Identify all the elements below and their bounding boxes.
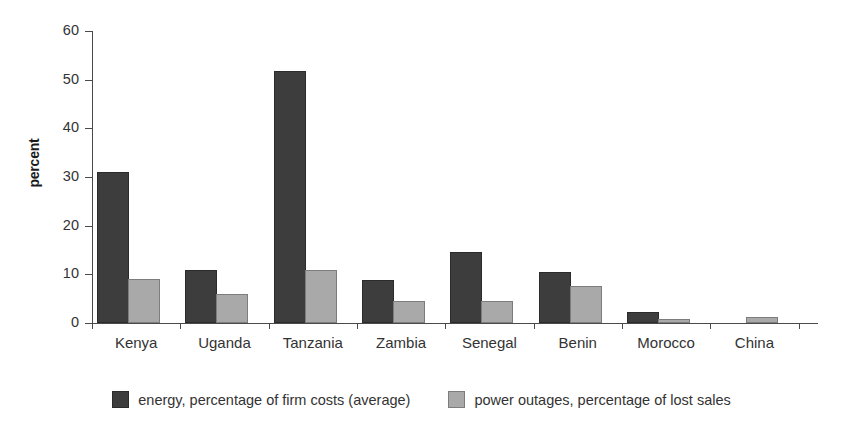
bar-group [357,31,445,323]
y-tick: 20 [85,226,92,227]
y-tick: 40 [85,128,92,129]
x-axis-label-morocco: Morocco [616,334,716,351]
bar-group [92,31,180,323]
bar-power-outages[interactable] [216,294,248,323]
bar-energy[interactable] [185,270,217,323]
bar-chart: percent 0102030405060 KenyaUgandaTanzani… [0,0,843,440]
bar-power-outages[interactable] [658,319,690,323]
bar-power-outages[interactable] [128,279,160,323]
bar-group [269,31,357,323]
y-tick-label: 0 [71,314,79,330]
bar-energy[interactable] [627,312,659,323]
bar-group [180,31,268,323]
x-tick [622,323,623,329]
bar-power-outages[interactable] [393,301,425,323]
legend-label-power-outages: power outages, percentage of lost sales [474,392,730,408]
dark-swatch-icon [112,391,129,408]
bar-energy[interactable] [274,71,306,323]
x-axis-label-benin: Benin [528,334,628,351]
x-axis-label-uganda: Uganda [174,334,274,351]
x-axis-line [92,323,818,324]
bar-power-outages[interactable] [481,301,513,323]
y-tick: 0 [85,323,92,324]
bar-group [534,31,622,323]
light-swatch-icon [448,391,465,408]
y-tick-label: 40 [63,119,79,135]
x-tick [269,323,270,329]
x-tick [180,323,181,329]
y-tick-label: 50 [63,71,79,87]
x-tick [92,323,93,329]
x-tick [445,323,446,329]
chart-legend: energy, percentage of firm costs (averag… [0,391,843,408]
y-tick-label: 30 [63,168,79,184]
y-tick-label: 20 [63,217,79,233]
plot-area: 0102030405060 KenyaUgandaTanzaniaZambiaS… [92,31,818,323]
x-tick [799,323,800,329]
bar-energy[interactable] [450,252,482,323]
legend-label-energy: energy, percentage of firm costs (averag… [138,392,410,408]
legend-item-power-outages: power outages, percentage of lost sales [448,391,730,408]
bar-group [622,31,710,323]
bar-energy[interactable] [362,280,394,323]
y-tick-label: 10 [63,265,79,281]
y-tick: 60 [85,31,92,32]
x-axis-label-tanzania: Tanzania [263,334,363,351]
bar-power-outages[interactable] [746,317,778,323]
x-axis-label-senegal: Senegal [439,334,539,351]
y-axis-title: percent [26,123,42,203]
bar-energy[interactable] [97,172,129,323]
bar-group [710,31,798,323]
y-tick-label: 60 [63,22,79,38]
x-axis-label-china: China [704,334,804,351]
y-tick: 10 [85,274,92,275]
x-axis-label-zambia: Zambia [351,334,451,351]
bar-power-outages[interactable] [305,270,337,323]
bar-group [445,31,533,323]
y-tick: 30 [85,177,92,178]
x-axis-label-kenya: Kenya [86,334,186,351]
bar-power-outages[interactable] [570,286,602,323]
bar-energy[interactable] [539,272,571,323]
x-tick [357,323,358,329]
x-tick [710,323,711,329]
x-tick [534,323,535,329]
legend-item-energy: energy, percentage of firm costs (averag… [112,391,410,408]
y-tick: 50 [85,80,92,81]
